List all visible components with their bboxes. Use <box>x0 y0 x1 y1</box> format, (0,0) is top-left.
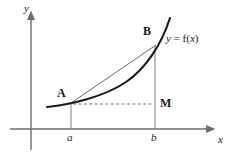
point-label-a: A <box>57 87 66 99</box>
point-label-m: M <box>160 97 171 109</box>
tick-label-b: b <box>151 132 157 143</box>
function-label-close: ) <box>195 32 199 44</box>
y-axis-label: y <box>24 3 29 14</box>
x-axis-label: x <box>218 134 223 145</box>
tick-label-a: a <box>67 132 73 143</box>
function-graph-figure: y x a b A B M y = f(x) <box>0 0 231 160</box>
secant-line-ab <box>71 45 156 103</box>
function-label-eq: = f( <box>171 32 190 44</box>
point-label-b: B <box>143 25 151 37</box>
function-label: y = f(x) <box>166 33 198 44</box>
graph-canvas <box>0 0 231 160</box>
